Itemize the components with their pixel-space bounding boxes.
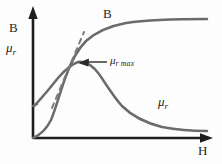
y-axis-mu-subscript: r (13, 47, 17, 57)
curve-label-mu-subscript: r (165, 101, 169, 111)
annotation-mu-r-max: μr max (110, 55, 134, 68)
mu-r-max-arrow (78, 59, 107, 67)
y-axis (28, 6, 37, 138)
initial-slope-tangent-line (52, 32, 84, 108)
x-axis-arrowhead (200, 133, 213, 142)
y-axis-label-mu-r: μr (6, 41, 16, 57)
annotation-mu-subscript: r max (116, 59, 135, 68)
plot-canvas (0, 0, 222, 164)
curve-label-mu-r: μr (158, 95, 168, 111)
x-axis (33, 133, 213, 142)
y-axis-arrowhead (28, 6, 37, 19)
curve-label-b: B (103, 7, 112, 20)
x-axis-label-h: H (198, 144, 207, 157)
y-axis-label-b: B (9, 21, 18, 34)
magnetization-permeability-figure: B μr H B μr μr max (0, 0, 222, 164)
